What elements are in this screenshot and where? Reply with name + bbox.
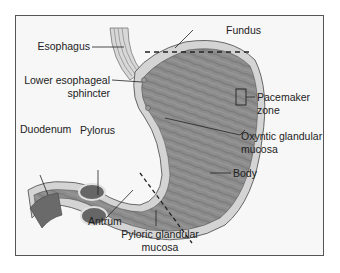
label-body: Body (233, 167, 257, 179)
label-pacemaker-line2: zone (257, 104, 280, 116)
label-duodenum: Duodenum (20, 123, 71, 135)
label-pylorus: Pylorus (80, 124, 115, 136)
label-fundus: Fundus (226, 24, 261, 36)
label-les-line1: Lower esophageal (20, 74, 110, 86)
label-les-line2: sphincter (20, 87, 110, 99)
label-esophagus: Esophagus (20, 40, 90, 52)
label-oxyntic-line2: mucosa (241, 143, 278, 155)
label-oxyntic-line1: Oxyntic glandular (241, 130, 322, 142)
label-pacemaker-line1: Pacemaker (257, 91, 310, 103)
label-pyloric-line2: mucosa (115, 241, 205, 253)
label-pyloric-line1: Pyloric glandular (115, 228, 205, 240)
label-antrum: Antrum (88, 215, 122, 227)
pylorus-upper-bulb (79, 184, 105, 200)
